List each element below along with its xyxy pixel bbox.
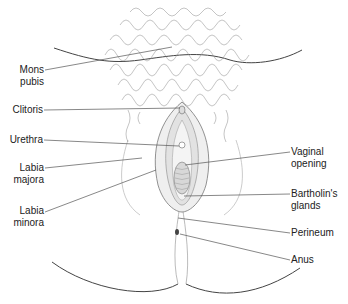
label-labia-majora: Labia majora [0, 162, 44, 186]
label-text: minora [0, 217, 44, 229]
label-text: Perineum [291, 227, 334, 239]
label-text: Mons [0, 64, 44, 76]
label-mons-pubis: Mons pubis [0, 64, 44, 88]
label-clitoris: Clitoris [0, 104, 43, 116]
label-text: Anus [291, 254, 314, 266]
label-anus: Anus [291, 254, 314, 266]
label-text: glands [291, 200, 337, 212]
label-text: pubis [0, 76, 44, 88]
label-text: Urethra [0, 134, 43, 146]
label-labia-minora: Labia minora [0, 205, 44, 229]
label-text: Clitoris [0, 104, 43, 116]
label-text: Labia [0, 205, 44, 217]
label-text: Bartholin's [291, 188, 337, 200]
label-text: Vaginal [291, 146, 327, 158]
label-urethra: Urethra [0, 134, 43, 146]
label-bartholins-glands: Bartholin's glands [291, 188, 337, 212]
label-perineum: Perineum [291, 227, 334, 239]
label-text: majora [0, 174, 44, 186]
label-text: opening [291, 158, 327, 170]
label-text: Labia [0, 162, 44, 174]
label-vaginal-opening: Vaginal opening [291, 146, 327, 170]
